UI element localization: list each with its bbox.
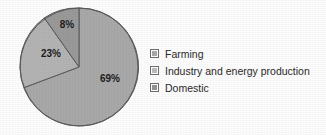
legend-swatch-domestic [150,83,159,92]
legend-label-domestic: Domestic [165,82,209,94]
legend-swatch-industry [150,66,159,75]
pie-label-domestic: 8% [60,19,75,30]
legend: Farming Industry and energy production D… [150,45,322,96]
legend-label-industry: Industry and energy production [165,65,310,77]
legend-item-farming: Farming [150,45,322,62]
pie-label-industry: 23% [41,48,61,59]
pie-label-farming: 69% [100,73,120,84]
pie-chart-figure: 69% 23% 8% Farming Industry and energy p… [0,0,326,135]
legend-swatch-farming [150,49,159,58]
legend-item-domestic: Domestic [150,79,322,96]
pie-chart-graphic: 69% 23% 8% [18,6,142,130]
legend-item-industry: Industry and energy production [150,62,322,79]
pie-svg: 69% 23% 8% [18,6,142,130]
legend-label-farming: Farming [165,48,204,60]
